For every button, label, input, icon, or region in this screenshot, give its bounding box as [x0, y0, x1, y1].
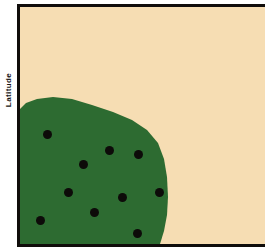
sample-point [134, 150, 143, 159]
sample-point [79, 160, 88, 169]
sample-point [105, 146, 114, 155]
sample-point [90, 208, 99, 217]
plot-area [20, 7, 265, 244]
sample-point [43, 130, 52, 139]
sample-point [133, 229, 142, 238]
y-axis-label: Latitude [3, 55, 15, 125]
plot-frame [17, 4, 265, 247]
sample-point [64, 188, 73, 197]
figure-root: Latitude [0, 0, 265, 251]
sample-point [118, 193, 127, 202]
shaded-range-region [20, 7, 265, 244]
sample-point [36, 216, 45, 225]
sample-point [155, 188, 164, 197]
